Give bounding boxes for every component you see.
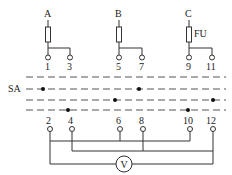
fuse-label: FU xyxy=(194,28,208,39)
contact-dot xyxy=(137,87,141,91)
terminal-label-10: 10 xyxy=(183,115,193,126)
fuse-b-icon xyxy=(117,27,122,42)
terminal-label-11: 11 xyxy=(206,61,216,72)
terminal-label-1: 1 xyxy=(45,61,50,72)
terminal-label-8: 8 xyxy=(139,115,144,126)
terminal-10 xyxy=(188,127,193,132)
terminal-3 xyxy=(68,55,73,60)
fuse-c-icon xyxy=(187,27,192,42)
phase-label-a: A xyxy=(44,8,52,19)
wiring-diagram: A 1 3 B 5 7 C FU 9 11 SA xyxy=(0,0,232,175)
contact-dot xyxy=(186,108,190,112)
contact-dot xyxy=(66,108,70,112)
terminal-label-2: 2 xyxy=(46,115,51,126)
terminal-label-6: 6 xyxy=(116,115,121,126)
phase-c: C FU 9 11 xyxy=(185,8,216,72)
terminal-4 xyxy=(70,127,75,132)
terminal-label-5: 5 xyxy=(116,61,121,72)
terminal-2 xyxy=(48,127,53,132)
voltmeter-label: V xyxy=(121,159,129,170)
terminal-label-3: 3 xyxy=(67,61,72,72)
terminal-label-4: 4 xyxy=(68,115,73,126)
terminal-5 xyxy=(117,55,122,60)
phase-label-b: B xyxy=(115,8,122,19)
fuse-a-icon xyxy=(46,27,51,42)
phase-label-c: C xyxy=(185,8,192,19)
terminal-label-7: 7 xyxy=(139,61,144,72)
contact-dot xyxy=(113,98,117,102)
switch-label-sa: SA xyxy=(8,83,22,94)
phase-a: A 1 3 xyxy=(44,8,73,72)
switch-sa: SA xyxy=(8,77,226,112)
contact-dot xyxy=(211,98,215,102)
terminal-12 xyxy=(211,127,216,132)
wiring xyxy=(50,132,213,165)
terminal-label-12: 12 xyxy=(206,115,216,126)
terminal-8 xyxy=(141,127,146,132)
terminal-11 xyxy=(210,55,215,60)
bottom-terminals: 2 4 6 8 10 12 xyxy=(46,115,216,132)
contact-dot xyxy=(41,87,45,91)
voltmeter: V xyxy=(116,156,132,172)
terminal-7 xyxy=(140,55,145,60)
terminal-label-9: 9 xyxy=(186,61,191,72)
terminal-6 xyxy=(118,127,123,132)
phase-b: B 5 7 xyxy=(115,8,145,72)
terminal-9 xyxy=(187,55,192,60)
terminal-1 xyxy=(46,55,51,60)
